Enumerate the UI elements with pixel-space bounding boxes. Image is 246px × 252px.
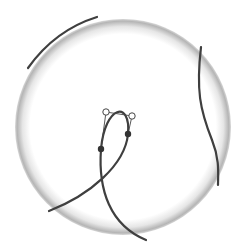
anchor-point[interactable]	[125, 131, 131, 137]
control-point[interactable]	[129, 113, 135, 119]
control-point[interactable]	[103, 109, 109, 115]
anchor-point[interactable]	[98, 146, 104, 152]
diagram-canvas	[0, 0, 246, 252]
sphere-diagram	[0, 0, 246, 252]
sphere	[15, 19, 231, 235]
